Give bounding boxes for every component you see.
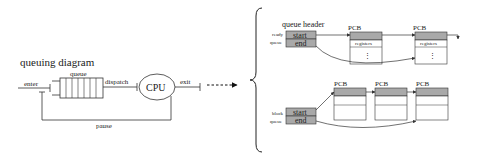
block-queue-name-2: queue [270,119,283,124]
dispatch-label: dispatch [105,78,129,86]
cpu-label: CPU [146,82,166,93]
ready-pcb-1-ellipsis: ⋮ [364,52,371,60]
block-pcb-2 [375,88,407,120]
block-pcb-2-label: PCB [375,80,389,88]
pause-label: pause [96,122,112,130]
block-pcb-1 [334,88,366,120]
queuing-diagram-title: queuing diagram [20,56,95,68]
curly-brace [250,8,262,152]
block-end-label: end [295,116,307,125]
ready-pcb-1-label: PCB [348,24,362,32]
exit-label: exit [180,78,191,86]
block-pcb-3 [416,88,448,120]
ready-queue: queue header ready queue start end PCB r… [270,20,458,64]
ready-pcb-1-registers: registers [355,41,372,46]
ready-pcb-2-label: PCB [413,24,427,32]
block-start-pointer [316,92,334,110]
ready-queue-name-2: queue [270,40,283,45]
queuing-diagram: queuing diagram enter queue dispatch CPU… [18,56,200,130]
ready-pcb-2-registers: registers [420,41,437,46]
block-pcb-3-label: PCB [416,80,430,88]
block-queue-name-1: block [272,111,284,116]
ready-end-label: end [295,39,307,48]
block-queue: block queue start end PCB PCB PCB [270,80,448,128]
ready-queue-name-1: ready [272,32,284,37]
enter-label: enter [24,80,39,88]
ready-pcb-2-ellipsis: ⋮ [429,52,436,60]
queue-header-label: queue header [282,20,325,29]
queue-label: queue [70,70,87,78]
block-end-pointer [316,121,416,128]
ready-null-pointer [447,35,458,39]
block-pcb-1-label: PCB [334,80,348,88]
queue-box [52,78,103,98]
diagram-canvas: queuing diagram enter queue dispatch CPU… [0,0,477,158]
